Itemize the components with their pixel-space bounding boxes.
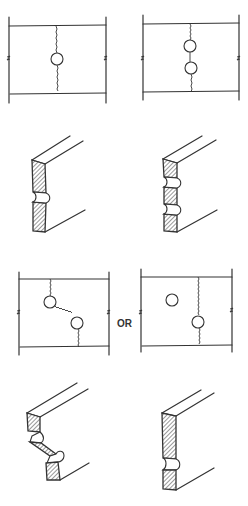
two-holes-inline-plan-panel: [141, 15, 240, 100]
hole-notch: [164, 204, 181, 215]
fracture-line: [199, 328, 200, 344]
staggered-straight-plan-panel: [139, 269, 233, 352]
fracture-line: [191, 74, 192, 92]
fracture-line: [198, 277, 199, 315]
hole-notch: [164, 177, 181, 188]
fracture-line: [56, 26, 57, 53]
diagram-canvas: OR: [0, 0, 248, 506]
hatched-section: [27, 413, 40, 432]
fracture-line: [57, 65, 58, 91]
hole-notch: [30, 432, 44, 443]
hatched-section: [33, 202, 46, 232]
hole-notch: [33, 192, 50, 203]
bolt-hole: [185, 62, 197, 74]
bolt-hole: [184, 40, 196, 52]
fracture-line: [78, 329, 79, 347]
single-hole-fracture-view: [32, 136, 85, 232]
hatched-section: [164, 214, 177, 232]
or-label: OR: [117, 318, 133, 329]
staggered-zigzag-plan-panel: [17, 272, 110, 355]
hatched-section: [30, 442, 56, 456]
hatched-section: [32, 160, 46, 193]
straight-fracture-view: [162, 390, 214, 490]
hatched-section: [164, 187, 177, 205]
fracture-line: [55, 306, 72, 313]
hatched-section: [162, 413, 176, 459]
bolt-hole: [71, 317, 83, 329]
hatched-section: [46, 462, 60, 480]
bolt-hole: [44, 296, 56, 308]
bolt-hole: [51, 53, 63, 65]
fracture-line: [190, 24, 191, 40]
single-hole-plan-panel: [7, 17, 107, 103]
two-holes-fracture-view: [163, 136, 217, 232]
bolt-hole: [192, 316, 204, 328]
hatched-section: [163, 159, 177, 178]
bolt-hole: [166, 294, 178, 306]
hatched-section: [163, 470, 176, 490]
hole-notch: [163, 458, 180, 470]
zigzag-fracture-view: [27, 383, 89, 480]
fracture-line: [50, 279, 51, 298]
